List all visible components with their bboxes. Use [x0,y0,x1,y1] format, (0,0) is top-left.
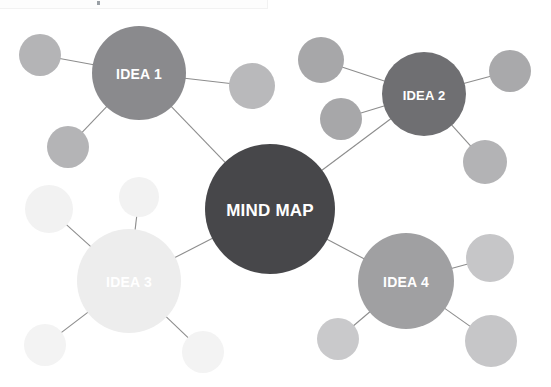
link-idea4-s12 [353,312,370,327]
link-center-idea4 [327,239,365,259]
mind-map-node-idea2[interactable]: IDEA 2 [382,52,466,136]
link-idea2-s7 [451,125,471,147]
link-center-idea1 [171,106,226,163]
node-label-idea2: IDEA 2 [403,88,446,103]
mind-map-node-idea1[interactable]: IDEA 1 [92,26,186,120]
satellite-node-s12[interactable] [317,318,359,360]
satellite-node-s7[interactable] [463,140,507,184]
link-idea2-s6 [464,76,491,83]
satellite-node-s2[interactable] [47,126,89,168]
satellite-node-s11[interactable] [182,331,224,373]
mind-map-node-idea4[interactable]: IDEA 4 [358,233,454,329]
link-idea4-s14 [444,308,470,326]
link-idea1-s2 [82,106,107,132]
node-label-idea4: IDEA 4 [383,274,429,290]
link-idea1-s1 [60,59,94,65]
satellite-node-s6[interactable] [489,50,531,92]
link-idea2-s4 [342,67,385,81]
satellite-node-s5[interactable] [320,98,362,140]
satellite-node-s4[interactable] [298,37,344,83]
satellite-node-s8[interactable] [25,185,73,233]
node-label-center: MIND MAP [226,201,314,220]
link-idea1-s3 [185,78,230,83]
link-idea3-s11 [166,316,189,338]
link-idea3-s9 [135,216,137,230]
mind-map-node-center[interactable]: MIND MAP [205,144,335,274]
link-idea3-s10 [61,312,89,333]
link-idea2-s5 [360,106,385,113]
node-label-idea3: IDEA 3 [106,274,152,290]
mind-map-node-idea3[interactable]: IDEA 3 [77,229,181,333]
link-idea4-s13 [451,264,467,269]
satellite-node-s10[interactable] [24,324,66,366]
link-center-idea3 [174,238,213,258]
satellite-node-s13[interactable] [466,234,514,282]
satellite-node-s1[interactable] [19,34,61,76]
satellite-node-s9[interactable] [119,177,159,217]
satellite-node-s3[interactable] [229,63,275,109]
node-label-idea1: IDEA 1 [116,66,162,82]
satellite-node-s14[interactable] [465,315,517,367]
link-idea3-s8 [66,224,91,246]
mind-map-canvas: MIND MAPIDEA 1IDEA 2IDEA 3IDEA 4 [0,0,551,387]
